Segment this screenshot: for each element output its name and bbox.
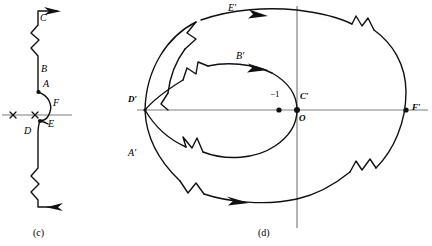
panel-d-outer-bottom-arrowhead xyxy=(227,197,249,206)
panel-d-label-Fprime: F′ xyxy=(412,103,421,112)
panel-d-point-minus-one xyxy=(276,107,281,112)
panel-d-outer-break-upperleft xyxy=(185,22,196,49)
panel-d-inner-arc-topleft xyxy=(145,80,183,110)
panel-c-bottom-arrowhead xyxy=(46,203,63,211)
panel-d-inner-top-arrowhead xyxy=(247,64,268,73)
panel-d-outer-break-lowerleft xyxy=(180,181,204,194)
figure-root: A B C D E F A′ B′ C′ D′ E′ F′ O −1 (c) (… xyxy=(0,0,432,246)
panel-d-label-Dprime: D′ xyxy=(128,95,137,104)
panel-c-caption: (c) xyxy=(33,228,44,238)
panel-d-label-Eprime: E′ xyxy=(228,3,236,13)
panel-d-label-O: O xyxy=(299,114,306,123)
panel-d-point-dprime xyxy=(143,108,146,111)
panel-d-outer-arc-bottomleft xyxy=(145,110,180,181)
panel-d-outer-arc-right xyxy=(374,30,406,168)
panel-d-label-Aprime: A′ xyxy=(128,148,136,158)
panel-d-outer-arc-top xyxy=(201,9,352,24)
panel-d-inner-arc-bottom xyxy=(203,110,297,158)
panel-c-label-E: E xyxy=(48,119,54,129)
panel-c-drawing xyxy=(0,0,432,246)
panel-d-point-fprime xyxy=(403,107,408,112)
panel-d-outer-arc-bottom xyxy=(204,172,350,203)
panel-d-inner-break-upperleft xyxy=(183,62,208,80)
panel-c-point-a-dot xyxy=(36,90,40,94)
panel-d-outer-arc-topleft xyxy=(145,22,196,110)
panel-d-outer-top-arrowhead xyxy=(248,10,268,19)
panel-d-label-Cprime: C′ xyxy=(300,92,309,101)
panel-d-outer-arc-topleft2 xyxy=(168,49,185,93)
panel-d-label-minus-one: −1 xyxy=(270,90,280,99)
panel-c-contour-lower xyxy=(31,121,57,207)
panel-d-outer-break-left xyxy=(161,93,168,110)
panel-c-label-C: C xyxy=(40,13,47,23)
panel-c-point-e-dot xyxy=(38,119,42,123)
panel-d-caption: (d) xyxy=(258,228,270,238)
panel-d-inner-break-lowerleft xyxy=(183,137,203,152)
panel-c-label-A: A xyxy=(43,79,49,89)
panel-c-label-D: D xyxy=(24,126,31,136)
panel-c-label-F: F xyxy=(53,98,59,108)
panel-d-outer-break-upperright xyxy=(352,16,374,30)
panel-c-label-B: B xyxy=(41,64,47,74)
panel-d-label-Bprime: B′ xyxy=(236,51,244,61)
panel-d-outer-break-lowerright xyxy=(350,159,376,172)
